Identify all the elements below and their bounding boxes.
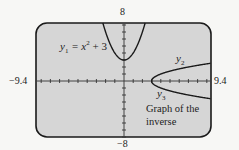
y3-sub: 3 [162, 94, 166, 102]
y1-eq: = x [68, 40, 86, 52]
inverse-annotation-line2: inverse [146, 117, 176, 128]
y3-label: y3 [157, 88, 165, 102]
ymin-label: −8 [117, 139, 128, 149]
graph-svg [0, 0, 239, 150]
xmax-label: 9.4 [214, 76, 227, 86]
y1-tail: + 3 [90, 40, 107, 52]
y1-equation-label: y1 = x2 + 3 [60, 40, 107, 55]
inverse-annotation-line1: Graph of the [146, 104, 199, 115]
ymax-label: 8 [120, 7, 125, 17]
xmin-label: −9.4 [9, 76, 27, 86]
calculator-graph: 8 −8 −9.4 9.4 y1 = x2 + 3 y2 y3 Graph of… [0, 0, 239, 150]
y2-label: y2 [176, 53, 184, 67]
y2-sub: 2 [181, 59, 185, 67]
